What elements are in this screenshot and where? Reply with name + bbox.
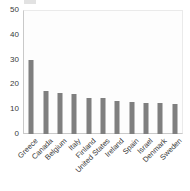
bar[interactable] [43, 91, 48, 134]
bar-slot [24, 10, 38, 134]
bar[interactable] [172, 104, 177, 134]
bar[interactable] [129, 102, 134, 134]
y-tick-label: 40 [10, 31, 19, 39]
bar-chart: 01020304050 GreeceCanadaBelgiumItalyFinl… [0, 0, 190, 191]
bar[interactable] [100, 98, 105, 134]
y-tick-label: 20 [10, 80, 19, 88]
clipped-top-element [24, 0, 36, 4]
bars-layer [24, 10, 182, 134]
bar-slot [168, 10, 182, 134]
bar[interactable] [29, 60, 34, 134]
bar[interactable] [144, 103, 149, 134]
y-tick-label: 0 [15, 130, 19, 138]
bar-slot [125, 10, 139, 134]
bar[interactable] [158, 103, 163, 134]
bar-slot [53, 10, 67, 134]
bar-slot [110, 10, 124, 134]
bar-slot [38, 10, 52, 134]
bar-slot [67, 10, 81, 134]
bar[interactable] [115, 101, 120, 134]
bar[interactable] [72, 94, 77, 134]
y-tick-label: 30 [10, 56, 19, 64]
y-axis: 01020304050 [0, 0, 23, 144]
bar[interactable] [57, 93, 62, 134]
bar-slot [139, 10, 153, 134]
bar[interactable] [86, 98, 91, 134]
y-tick-label: 50 [10, 6, 19, 14]
bar-slot [153, 10, 167, 134]
x-axis-labels: GreeceCanadaBelgiumItalyFinlandUnited St… [24, 135, 182, 191]
bar-slot [81, 10, 95, 134]
bar-slot [96, 10, 110, 134]
y-tick-label: 10 [10, 105, 19, 113]
